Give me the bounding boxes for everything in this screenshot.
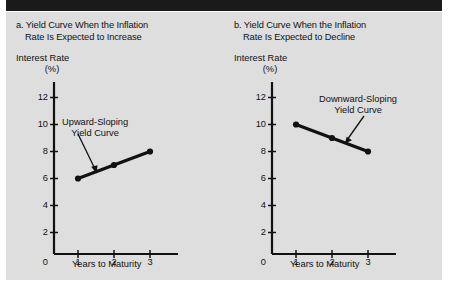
data-point-a-1 (75, 175, 81, 181)
figure-root: a. Yield Curve When the Inflation Rate I… (0, 0, 461, 297)
x-axis-title-b: Years to Maturity (290, 259, 359, 270)
annotation-arrow-line-a (78, 134, 95, 169)
annotation-arrow-line-b (347, 116, 364, 140)
figure-panel: a. Yield Curve When the Inflation Rate I… (6, 12, 442, 280)
plot-area-a (6, 12, 224, 280)
data-point-b-2 (329, 135, 335, 141)
figure-header-bar (6, 0, 442, 11)
x-axis-title-a: Years to Maturity (72, 259, 141, 270)
data-point-b-1 (293, 121, 299, 127)
chart-svg-a (6, 12, 224, 280)
data-point-a-2 (111, 162, 117, 168)
data-point-a-3 (147, 148, 153, 154)
data-point-b-3 (365, 148, 371, 154)
plot-area-b (224, 12, 442, 280)
chart-svg-b (224, 12, 442, 280)
chart-panel-a: a. Yield Curve When the Inflation Rate I… (6, 12, 224, 280)
chart-panel-b: b. Yield Curve When the Inflation Rate I… (224, 12, 442, 280)
